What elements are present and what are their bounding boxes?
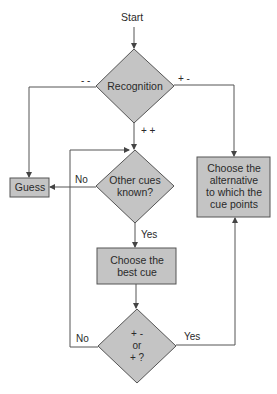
other-cues-line2: known? [100,186,170,198]
cue-check-line3: + ? [112,352,162,364]
edge-label-recognition-right: + - [178,73,190,85]
choose-alternative-line2: alternative [197,174,271,186]
edge-label-other-cues-no: No [75,174,88,186]
edge-label-cue-check-yes: Yes [184,331,200,343]
choose-best-cue-line1: Choose the [97,254,177,266]
choose-best-cue-label: Choose the best cue [97,254,177,278]
cue-check-line1: + - [112,328,162,340]
cue-check-line2: or [112,340,162,352]
choose-best-cue-line2: best cue [97,266,177,278]
other-cues-line1: Other cues [100,174,170,186]
guess-label: Guess [10,181,50,193]
other-cues-label: Other cues known? [100,174,170,198]
edge-label-recognition-left: - - [81,75,90,87]
edge-label-other-cues-yes: Yes [141,229,157,241]
edge-label-recognition-down: + + [141,125,155,137]
edge-label-cue-check-no: No [76,333,89,345]
choose-alternative-line4: cue points [197,198,271,210]
recognition-label: Recognition [96,80,174,92]
choose-alternative-line3: to which the [197,186,271,198]
choose-alternative-line1: Choose the [197,162,271,174]
choose-alternative-label: Choose the alternative to which the cue … [197,162,271,210]
start-label: Start [121,11,143,23]
cue-check-label: + - or + ? [112,328,162,364]
